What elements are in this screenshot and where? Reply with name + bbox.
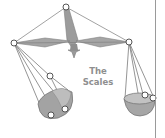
scales-illustration: The Scales bbox=[0, 0, 165, 138]
caption-line-1: The bbox=[78, 66, 118, 77]
arrow-pointer bbox=[68, 50, 80, 58]
top-pivot-ring bbox=[63, 4, 69, 10]
caption: The Scales bbox=[78, 66, 118, 88]
right-pan bbox=[124, 92, 156, 116]
right-pan-strings bbox=[125, 42, 154, 98]
vertical-divider bbox=[155, 0, 156, 138]
caption-line-2: Scales bbox=[78, 77, 118, 88]
left-pivot-ring bbox=[11, 40, 17, 46]
right-pivot-ring bbox=[126, 39, 132, 45]
